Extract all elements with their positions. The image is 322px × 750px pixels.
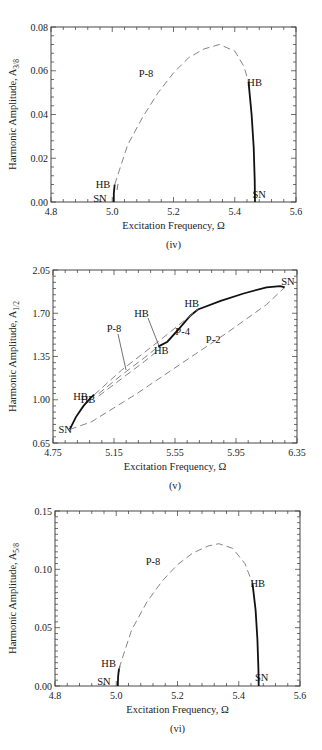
y-axis-label: Harmonic Amplitude, A3/8 [7, 59, 21, 170]
x-tick-label: 5.6 [294, 690, 307, 701]
annotation-label: P-8 [107, 323, 122, 334]
plot-frame [51, 27, 296, 202]
annotation-label: SN [97, 676, 111, 687]
annotation-label: SN [281, 276, 295, 287]
y-tick-label: 0.00 [31, 197, 49, 208]
annotation-label: SN [93, 193, 107, 204]
x-tick-label: 5.6 [290, 206, 303, 217]
x-tick-label: 5.0 [106, 206, 119, 217]
y-tick-label: 0.65 [33, 438, 51, 449]
x-axis-label: Excitation Frequency, Ω [126, 704, 229, 715]
chart-panel-vi: 4.85.05.25.45.60.000.050.100.15Excitatio… [7, 506, 306, 736]
x-axis-label: Excitation Frequency, Ω [124, 461, 227, 472]
x-tick-label: 4.75 [44, 447, 62, 458]
y-tick-label: 1.70 [33, 308, 51, 319]
y-tick-label: 0.10 [35, 564, 53, 575]
x-tick-label: 4.8 [49, 690, 62, 701]
x-tick-label: 5.15 [105, 447, 123, 458]
series-line [198, 286, 285, 309]
series-line [249, 82, 256, 202]
series-line [253, 583, 259, 686]
y-tick-label: 0.05 [35, 622, 53, 633]
panel-label: (vi) [170, 723, 186, 735]
hb-leader-line [148, 318, 159, 346]
annotation-label: HB [101, 658, 116, 669]
y-tick-label: 0.15 [35, 506, 53, 517]
annotation-label: P-8 [139, 68, 154, 79]
y-axis-label: Harmonic Amplitude, A1/2 [7, 301, 21, 412]
y-tick-label: 2.05 [33, 265, 51, 276]
x-tick-label: 5.0 [110, 690, 123, 701]
series-line [99, 347, 159, 394]
x-tick-label: 5.2 [167, 206, 180, 217]
chart-panel-v: 4.755.155.555.956.350.651.001.351.702.05… [7, 265, 306, 493]
series-line [119, 544, 253, 669]
figure: 4.85.05.25.45.60.000.020.040.060.08Excit… [0, 0, 322, 750]
annotation-label: HB [184, 298, 199, 309]
series-line [114, 185, 115, 203]
y-tick-label: 0.06 [31, 65, 49, 76]
annotation-label: P-4 [175, 326, 190, 337]
annotation-label: HB [134, 308, 149, 319]
annotation-label: P-8 [146, 556, 161, 567]
annotation-label: HB [81, 394, 96, 405]
annotation-label: SN [253, 189, 267, 200]
hb-tick-mark [117, 184, 118, 190]
y-tick-label: 1.00 [33, 394, 51, 405]
y-tick-label: 0.04 [31, 109, 49, 120]
x-tick-label: 4.8 [45, 206, 58, 217]
x-tick-label: 5.55 [166, 447, 184, 458]
annotation-label: HB [247, 77, 262, 88]
panel-label: (v) [169, 480, 182, 492]
series-line [99, 350, 159, 396]
x-tick-label: 6.35 [288, 447, 306, 458]
y-tick-label: 0.00 [35, 681, 53, 692]
x-tick-label: 5.4 [229, 206, 242, 217]
annotation-label: HB [250, 578, 265, 589]
plot-frame [53, 270, 297, 443]
panel-label: (iv) [166, 239, 182, 251]
annotation-label: P-2 [206, 334, 221, 345]
series-line [70, 287, 285, 429]
p8-leader-line [118, 334, 126, 370]
annotation-label: SN [58, 424, 72, 435]
y-tick-label: 1.35 [33, 351, 51, 362]
plot-frame [55, 511, 300, 686]
annotation-label: HB [154, 345, 169, 356]
x-tick-label: 5.2 [171, 690, 184, 701]
x-axis-label: Excitation Frequency, Ω [122, 220, 225, 231]
series-line [115, 45, 249, 185]
annotation-label: SN [255, 672, 269, 683]
y-tick-label: 0.02 [31, 153, 49, 164]
x-tick-label: 5.4 [233, 690, 246, 701]
chart-panel-iv: 4.85.05.25.45.60.000.020.040.060.08Excit… [7, 22, 302, 252]
annotation-label: HB [96, 179, 111, 190]
x-tick-label: 5.95 [227, 447, 245, 458]
y-axis-label: Harmonic Amplitude, A5/8 [7, 543, 21, 654]
y-tick-label: 0.08 [31, 22, 49, 33]
